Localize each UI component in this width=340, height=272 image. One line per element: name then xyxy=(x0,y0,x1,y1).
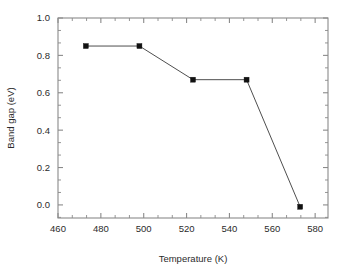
x-tick-label: 540 xyxy=(221,223,237,234)
x-tick-label: 580 xyxy=(307,223,323,234)
y-tick-label: 0.4 xyxy=(37,125,50,136)
y-tick-label: 1.0 xyxy=(37,12,50,23)
data-point-marker xyxy=(83,44,88,49)
data-point-marker xyxy=(137,44,142,49)
x-tick-label: 480 xyxy=(93,223,109,234)
data-point-marker xyxy=(244,77,249,82)
x-tick-label: 560 xyxy=(264,223,280,234)
data-point-marker xyxy=(298,204,303,209)
y-tick-label: 0.2 xyxy=(37,162,50,173)
y-axis-title: Band gap (eV) xyxy=(5,87,16,148)
x-tick-label: 460 xyxy=(50,223,66,234)
chart-figure: 460480500520540560580 0.00.20.40.60.81.0… xyxy=(0,0,340,272)
band-gap-line-chart: 460480500520540560580 0.00.20.40.60.81.0… xyxy=(0,0,340,272)
x-tick-label: 500 xyxy=(136,223,152,234)
x-tick-label: 520 xyxy=(179,223,195,234)
data-point-marker xyxy=(191,77,196,82)
y-tick-label: 0.6 xyxy=(37,87,50,98)
y-tick-label: 0.0 xyxy=(37,199,50,210)
x-axis-title: Temperature (K) xyxy=(159,253,228,264)
y-tick-label: 0.8 xyxy=(37,50,50,61)
